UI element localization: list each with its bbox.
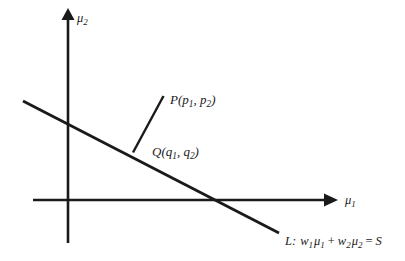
geometry-figure: μ2 μ1 P(p1, p2) Q(q1, q2) L:w1μ1+w2μ2=S [0, 0, 405, 261]
diagram-canvas: μ2 μ1 P(p1, p2) Q(q1, q2) L:w1μ1+w2μ2=S [0, 0, 405, 261]
figure-background [0, 0, 405, 261]
